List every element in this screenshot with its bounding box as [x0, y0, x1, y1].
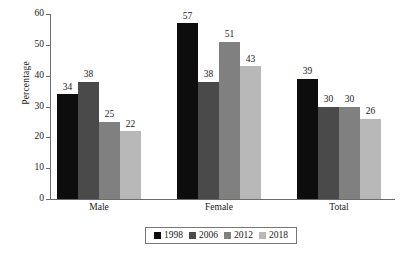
- bar[interactable]: [360, 119, 381, 199]
- bar[interactable]: [240, 66, 261, 199]
- y-axis-tick-label: 60: [18, 9, 44, 19]
- bar[interactable]: [99, 122, 120, 199]
- legend-swatch-icon: [259, 232, 266, 239]
- bar[interactable]: [318, 107, 339, 200]
- bar-value-label: 57: [170, 12, 205, 22]
- y-axis-tick-label: 30: [18, 102, 44, 112]
- bar-value-label: 30: [332, 95, 367, 105]
- x-axis-line: [50, 199, 395, 200]
- bar[interactable]: [177, 23, 198, 199]
- bar-group: 57385143: [177, 14, 261, 199]
- bar-chart: Percentage 0102030405060 343825225738514…: [0, 0, 408, 256]
- bar-group: 34382522: [57, 14, 141, 199]
- bar[interactable]: [198, 82, 219, 199]
- chart-legend: 1998200620122018: [145, 227, 297, 244]
- y-axis-tick-label: 0: [18, 194, 44, 204]
- bar-value-label: 39: [290, 67, 325, 77]
- bar[interactable]: [120, 131, 141, 199]
- bar[interactable]: [78, 82, 99, 199]
- x-axis-label-total: Total: [297, 203, 381, 213]
- legend-item-2012[interactable]: 2012: [224, 231, 253, 241]
- y-axis-tick-label: 20: [18, 132, 44, 142]
- bar-value-label: 38: [71, 70, 106, 80]
- legend-item-1998[interactable]: 1998: [154, 231, 183, 241]
- bar-value-label: 51: [212, 30, 247, 40]
- bar-value-label: 22: [113, 120, 148, 130]
- plot-area: 343825225738514339303026: [50, 14, 395, 199]
- legend-item-2018[interactable]: 2018: [259, 231, 288, 241]
- bar-group: 39303026: [297, 14, 381, 199]
- bar[interactable]: [219, 42, 240, 199]
- legend-label: 1998: [164, 231, 183, 241]
- legend-label: 2006: [199, 231, 218, 241]
- legend-swatch-icon: [154, 232, 161, 239]
- x-axis-label-female: Female: [177, 203, 261, 213]
- legend-swatch-icon: [189, 232, 196, 239]
- bar[interactable]: [57, 94, 78, 199]
- bar-value-label: 25: [92, 110, 127, 120]
- bar[interactable]: [339, 107, 360, 200]
- y-axis-tick-label: 40: [18, 71, 44, 81]
- y-axis-tick-label: 10: [18, 163, 44, 173]
- y-axis-tick-label: 50: [18, 40, 44, 50]
- legend-label: 2012: [234, 231, 253, 241]
- y-axis-tick: [46, 199, 51, 200]
- bar-value-label: 43: [233, 55, 268, 65]
- legend-swatch-icon: [224, 232, 231, 239]
- x-axis-label-male: Male: [57, 203, 141, 213]
- bar-value-label: 26: [353, 107, 388, 117]
- legend-item-2006[interactable]: 2006: [189, 231, 218, 241]
- legend-label: 2018: [269, 231, 288, 241]
